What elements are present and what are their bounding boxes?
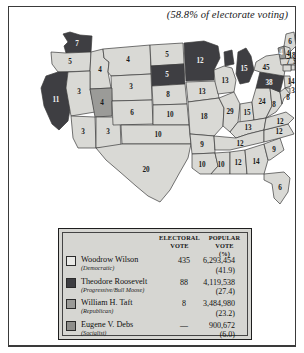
popular-vote-count-wilson: 6,293,454 [203,256,235,265]
ev-label-NV: 3 [77,88,81,96]
us-electoral-map: .s{stroke:#3b3b3b;stroke-width:0.7;} .w{… [8,26,296,226]
candidate-party-debs: (Socialist) [81,329,165,337]
candidate-name-wilson: Woodrow Wilson [81,255,165,264]
ev-label-VA: 12 [276,118,284,126]
popular-vote-count-debs: 900,672 [209,321,235,330]
legend-row-debs: Eugene V. Debs (Socialist) — 900,672 (6.… [64,320,247,342]
electoral-vote-roosevelt: 88 [165,277,203,287]
map-svg: .s{stroke:#3b3b3b;stroke-width:0.7;} .w{… [8,26,296,226]
ev-label-ID: 4 [98,66,102,74]
legend-row-wilson: Woodrow Wilson (Democratic) 435 6,293,45… [64,255,247,277]
ev-label-KS: 10 [166,111,174,119]
ev-label-VT: 4 [279,49,283,57]
legend-names-taft: William H. Taft (Republican) [81,298,165,315]
ev-label-LA: 10 [198,161,206,169]
color-swatch-debs [66,321,76,331]
ev-label-MI: 15 [240,65,248,73]
legend-names-debs: Eugene V. Debs (Socialist) [81,320,165,337]
ev-label-WV: 8 [272,101,276,109]
electoral-vote-wilson: 435 [165,255,203,265]
ev-label-CO: 6 [130,109,134,117]
ev-label-WI: 13 [221,77,229,85]
candidate-party-wilson: (Democratic) [81,264,165,272]
ev-label-MT: 4 [126,56,130,64]
legend-row-roosevelt: Theodore Roosevelt (Progressive/Bull Moo… [64,277,247,299]
legend-rows: Woodrow Wilson (Democratic) 435 6,293,45… [64,255,247,341]
color-swatch-taft [66,299,76,309]
popular-vote-debs: 900,672 (6.0) [203,320,247,340]
legend-names-roosevelt: Theodore Roosevelt (Progressive/Bull Moo… [81,277,165,294]
state-RI [291,65,295,70]
ev-label-CA: 11 [53,96,60,104]
ev-label-IA: 13 [198,88,206,96]
ev-label-OK: 10 [154,131,162,139]
figure-border-bottom [8,345,296,347]
popular-vote-count-roosevelt: 4,119,538 [203,278,235,287]
ev-label-MD: 8 [286,94,290,102]
ev-label-CT: 7 [286,58,290,66]
ev-label-WY: 3 [129,83,133,91]
state-FL [264,172,290,204]
ev-label-ND: 5 [165,51,169,59]
ev-label-NE: 8 [166,91,170,99]
legend-row-taft: William H. Taft (Republican) 8 3,484,980… [64,298,247,320]
ev-label-IL: 29 [226,108,234,116]
ev-label-PA: 38 [265,79,273,87]
candidate-party-roosevelt: (Progressive/Bull Moose) [81,286,165,294]
candidate-party-taft: (Republican) [81,307,165,315]
ev-label-NM: 3 [106,128,110,136]
ev-label-RI: 5 [293,58,296,66]
popular-vote-percent-wilson: (41.9) [203,266,235,276]
color-swatch-wilson [66,256,76,266]
popular-vote-taft: 3,484,980 (23.2) [203,298,247,318]
candidate-name-debs: Eugene V. Debs [81,320,165,329]
ev-label-DE: 3 [291,87,295,95]
ev-label-NJ: 14 [287,78,295,86]
election-map-figure: (58.8% of electorate voting) .s{stroke:#… [0,0,304,353]
ev-label-GA: 14 [252,158,260,166]
ev-label-ME: 6 [288,38,292,46]
ev-label-IN: 15 [243,109,251,117]
candidate-name-roosevelt: Theodore Roosevelt [81,277,165,286]
state-CT [283,65,291,71]
ev-label-FL: 6 [278,184,282,192]
results-legend: Electoral Vote Popular Vote (%) Woodrow … [58,228,252,340]
ev-label-NY: 45 [262,64,270,72]
legend-header-electoral-line2: Vote [157,242,202,250]
electoral-vote-debs: — [165,320,203,330]
ev-label-MO: 18 [200,113,208,121]
popular-vote-roosevelt: 4,119,538 (27.4) [203,277,247,297]
ev-label-SD: 5 [165,71,169,79]
ev-label-MS: 10 [217,161,225,169]
legend-header-electoral-line1: Electoral [159,234,200,241]
ev-label-AL: 12 [234,159,242,167]
turnout-caption: (58.8% of electorate voting) [167,9,288,20]
color-swatch-roosevelt [66,278,76,288]
ev-label-NC: 12 [275,128,283,136]
ev-label-UT: 4 [100,99,104,107]
popular-vote-count-taft: 3,484,980 [203,299,235,308]
electoral-vote-taft: 8 [165,298,203,308]
ev-label-MN: 12 [196,57,204,65]
ev-label-TX: 20 [142,166,150,174]
ev-label-AZ: 3 [81,128,85,136]
legend-header-popular-line1: Popular Vote [209,234,240,249]
ev-label-WA: 7 [75,40,79,48]
legend-names-wilson: Woodrow Wilson (Democratic) [81,255,165,272]
ev-label-TN: 12 [236,140,244,148]
ev-label-OH: 24 [258,98,266,106]
popular-vote-wilson: 6,293,454 (41.9) [203,255,247,275]
ev-label-AR: 9 [200,141,204,149]
ev-label-OR: 5 [68,58,72,66]
ev-label-KY: 13 [244,124,252,132]
candidate-name-taft: William H. Taft [81,298,165,307]
popular-vote-percent-taft: (23.2) [203,309,235,319]
popular-vote-percent-debs: (6.0) [203,330,235,340]
popular-vote-percent-roosevelt: (27.4) [203,287,235,297]
ev-label-SC: 9 [272,146,276,154]
